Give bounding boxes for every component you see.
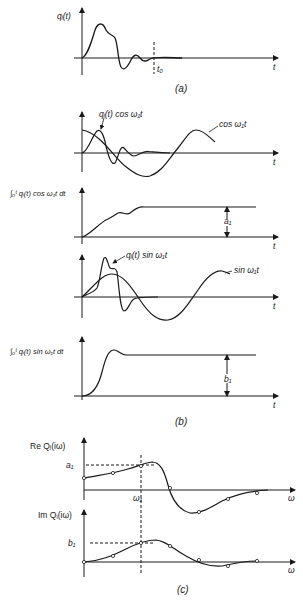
- panel-a-caption: (a): [175, 84, 187, 94]
- c1-y-label: Re Qᵢ(iω): [30, 442, 65, 451]
- b2-y-label: ∫₀ᵗ qᵢ(t) cos ω₁t dt: [10, 190, 65, 198]
- b3-product-label: qᵢ(t) sin ω₁t: [126, 251, 167, 260]
- b2-a1-label: a₁: [224, 217, 231, 226]
- panel-c-caption: (c): [177, 585, 189, 595]
- qi-curve: [82, 24, 182, 69]
- b4-y-label: ∫₀ᵗ qᵢ(t) sin ω₁t dt: [10, 348, 63, 356]
- panel-c2-plot: [82, 510, 295, 577]
- b4-b1-label: b₁: [224, 375, 231, 384]
- b3-x-label: t: [273, 302, 275, 311]
- b3-sin-label: sin ω₁t: [234, 266, 259, 275]
- c1-a1-label: a₁: [66, 461, 73, 470]
- panel-a-y-label: qᵢ(t): [57, 12, 71, 21]
- panel-b-caption: (b): [175, 417, 187, 427]
- b1-product-label: qᵢ(t) cos ω₁t: [99, 110, 142, 119]
- panel-a-x-label: t: [273, 63, 275, 72]
- panel-b1-plot: [74, 112, 278, 177]
- panel-a-plot: [74, 8, 278, 75]
- b4-x-label: t: [273, 401, 275, 410]
- c2-b1-label: b₁: [68, 539, 75, 548]
- re-curve: [84, 462, 268, 513]
- sin-curve: [82, 271, 230, 320]
- panel-a-t0-label: t₀: [157, 65, 163, 74]
- c1-omega1-label: ω₁: [133, 494, 142, 503]
- sin-integral-curve: [82, 350, 256, 396]
- sin-product-curve: [82, 257, 158, 311]
- b1-cos-label: cos ω₁t: [219, 120, 246, 129]
- panel-b2-plot: [74, 188, 278, 244]
- b1-x-label: t: [273, 158, 275, 167]
- c2-y-label: Im Qᵢ(iω): [38, 511, 72, 520]
- c2-x-label: ω: [288, 566, 295, 575]
- c1-x-label: ω: [288, 494, 295, 503]
- b2-x-label: t: [273, 242, 275, 251]
- panel-b4-plot: [74, 337, 278, 400]
